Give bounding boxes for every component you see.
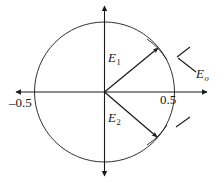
phasor-diagram-canvas: [0, 0, 223, 182]
arc-tick-lower: [147, 125, 167, 145]
tick-upper-right: [177, 47, 190, 57]
vector-label-e2: E2: [108, 111, 120, 124]
resultant-label-eo-base: E: [196, 66, 204, 81]
phasor-figure: –0.5 0.5 E1 E2 Eo: [0, 0, 223, 182]
vector-label-e1-subscript: 1: [116, 57, 120, 67]
vector-label-e2-subscript: 2: [116, 117, 120, 127]
leader-line-eo: [178, 58, 196, 72]
vector-label-e2-base: E: [108, 110, 116, 125]
vector-label-e1-base: E: [108, 50, 116, 65]
vector-label-e1: E1: [108, 51, 120, 64]
tick-lower-right: [176, 117, 190, 127]
x-axis-tick-label-positive: 0.5: [160, 93, 176, 106]
x-axis-tick-label-negative: –0.5: [9, 96, 32, 109]
resultant-label-eo: Eo: [196, 67, 208, 80]
resultant-label-eo-subscript: o: [204, 73, 208, 83]
